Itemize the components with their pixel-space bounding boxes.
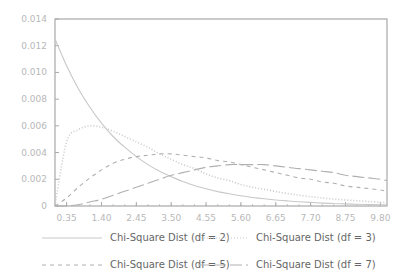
y-tick-label: 0.010 xyxy=(21,67,47,77)
series-line-4 xyxy=(55,165,387,207)
legend-swatch-solid-icon xyxy=(42,235,102,241)
x-tick-label: 8.75 xyxy=(335,213,355,223)
legend-label: Chi-Square Dist (df = 3) xyxy=(256,232,376,243)
y-tick-label: 0.008 xyxy=(21,94,47,104)
legend-swatch-long-dashed-icon xyxy=(198,262,248,268)
y-tick-label: 0.006 xyxy=(21,121,47,131)
x-tick-label: 3.50 xyxy=(161,213,181,223)
chart-plot: 00.0020.0040.0060.0080.0100.0120.0140.35… xyxy=(0,0,411,230)
legend-swatch-dotted-icon xyxy=(198,235,248,241)
x-tick-label: 6.65 xyxy=(266,213,286,223)
y-tick-label: 0 xyxy=(41,201,47,211)
x-tick-label: 7.70 xyxy=(301,213,321,223)
x-tick-label: 5.60 xyxy=(231,213,251,223)
x-tick-label: 9.80 xyxy=(370,213,390,223)
y-tick-label: 0.014 xyxy=(21,14,47,24)
chart-container: 00.0020.0040.0060.0080.0100.0120.0140.35… xyxy=(0,0,411,277)
x-tick-label: 4.55 xyxy=(196,213,216,223)
x-tick-label: 2.45 xyxy=(126,213,146,223)
series-line-1 xyxy=(55,39,387,205)
legend-item-df3: Chi-Square Dist (df = 3) xyxy=(198,232,376,243)
y-tick-label: 0.004 xyxy=(21,148,47,158)
y-tick-label: 0.012 xyxy=(21,41,47,51)
legend-label: Chi-Square Dist (df = 7) xyxy=(256,259,376,270)
x-tick-label: 1.40 xyxy=(91,213,111,223)
legend-item-df7: Chi-Square Dist (df = 7) xyxy=(198,259,376,270)
x-tick-label: 0.35 xyxy=(57,213,77,223)
legend-swatch-dashed-icon xyxy=(42,262,102,268)
y-tick-label: 0.002 xyxy=(21,174,47,184)
